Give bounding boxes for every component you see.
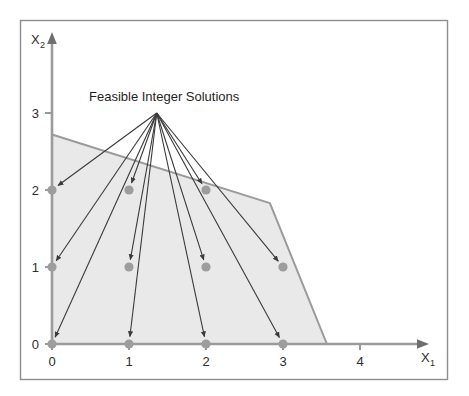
y-tick-label: 3	[32, 106, 39, 121]
integer-solution-point	[47, 185, 56, 194]
y-tick-label: 1	[32, 260, 39, 275]
y-tick-label: 0	[32, 337, 39, 352]
x-axis-arrowhead	[417, 339, 429, 349]
integer-solution-point	[47, 262, 56, 271]
integer-solution-point	[124, 339, 133, 348]
integer-solution-point	[47, 339, 56, 348]
integer-solution-point	[201, 262, 210, 271]
y-axis-arrowhead	[47, 32, 57, 44]
integer-solution-point	[201, 185, 210, 194]
plot-canvas: 012340123 X 1 X 2 Feasible Integer Solut…	[0, 0, 469, 396]
x-axis-label: X	[421, 350, 430, 365]
x-axis-label-subscript: 1	[430, 358, 435, 368]
integer-solution-point	[278, 339, 287, 348]
feasible-region-polygon	[52, 135, 327, 344]
annotation-label: Feasible Integer Solutions	[89, 89, 240, 104]
x-tick-label: 3	[279, 354, 286, 369]
integer-solution-point	[124, 262, 133, 271]
feasible-region	[52, 135, 327, 344]
x-tick-label: 2	[202, 354, 209, 369]
x-tick-label: 4	[356, 354, 363, 369]
integer-solution-point	[201, 339, 210, 348]
y-axis-label-subscript: 2	[40, 40, 45, 50]
integer-solution-point	[278, 262, 287, 271]
x-tick-label: 1	[125, 354, 132, 369]
integer-solution-point	[124, 185, 133, 194]
y-axis-label: X	[31, 32, 40, 47]
x-tick-label: 0	[48, 354, 55, 369]
figure-container: 012340123 X 1 X 2 Feasible Integer Solut…	[0, 0, 469, 396]
y-tick-label: 2	[32, 183, 39, 198]
